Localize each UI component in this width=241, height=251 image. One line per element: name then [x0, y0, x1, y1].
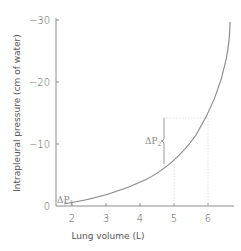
delta-p2-bracket — [161, 118, 164, 164]
chart: −30 −20 −10 0 2 3 4 5 6 Lung volume (L) … — [0, 0, 241, 251]
x-axis-label: Lung volume (L) — [71, 231, 144, 241]
pressure-volume-curve — [64, 22, 230, 204]
x-tick-label: 2 — [69, 213, 75, 224]
delta-p1-label: ΔP1 — [57, 195, 73, 206]
x-tick-label: 6 — [205, 213, 211, 224]
delta-p2-guides — [164, 118, 208, 206]
y-tick-label: −20 — [29, 77, 50, 88]
y-tick-label: 0 — [44, 201, 50, 212]
x-tick-label: 3 — [103, 213, 109, 224]
x-tick-label: 4 — [137, 213, 143, 224]
y-tick-label: −30 — [29, 15, 50, 26]
y-tick-label: −10 — [29, 139, 50, 150]
delta-p2-label: ΔP2 — [145, 136, 162, 147]
x-tick-label: 5 — [171, 213, 177, 224]
y-axis-label: Intrapleural pressure (cm of water) — [12, 34, 22, 192]
